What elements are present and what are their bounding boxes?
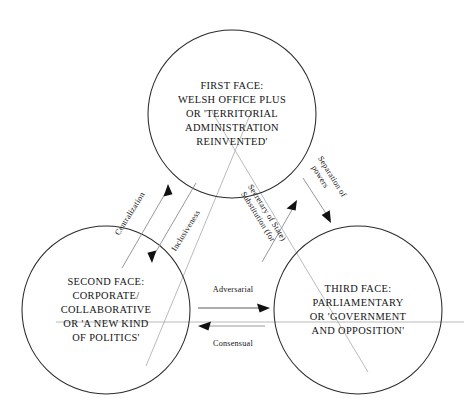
circle-second-face[interactable]: SECOND FACE: CORPORATE/ COLLABORATIVE OR…	[22, 226, 190, 394]
arrowhead-adversarial	[257, 304, 270, 313]
third-face-line-1: THIRD FACE:	[325, 283, 392, 294]
second-face-line-1: SECOND FACE:	[67, 276, 144, 287]
arrowhead-separation-of-powers	[322, 210, 331, 223]
arrowhead-inclusiveness	[147, 251, 156, 264]
edge-label-inclusiveness: Inclusiveness	[170, 208, 202, 252]
edge-label-adversarial: Adversarial	[213, 285, 254, 294]
first-face-line-2: WELSH OFFICE PLUS	[178, 94, 286, 105]
arrowhead-consensual	[198, 322, 211, 331]
third-face-line-3: OR 'GOVERNMENT	[310, 311, 407, 322]
arrowhead-centralization	[164, 184, 173, 197]
edge-separation-of-powers[interactable]: Separation of powers	[303, 155, 348, 223]
diagram-canvas: FIRST FACE: WELSH OFFICE PLUS OR 'TERRIT…	[0, 0, 464, 420]
second-face-line-2: CORPORATE/	[72, 290, 139, 301]
circle-first-face[interactable]: FIRST FACE: WELSH OFFICE PLUS OR 'TERRIT…	[148, 30, 316, 198]
edge-substitution[interactable]: Substitution (for Secretary of State)	[239, 183, 297, 262]
circle-third-face[interactable]: THIRD FACE: PARLIAMENTARY OR 'GOVERNMENT…	[274, 226, 442, 394]
first-face-line-5: REINVENTED'	[196, 136, 268, 147]
second-face-line-4: OR 'A NEW KIND	[63, 318, 149, 329]
first-face-line-1: FIRST FACE:	[200, 80, 263, 91]
third-face-line-4: AND OPPOSITION'	[312, 325, 405, 336]
second-face-line-5: OF POLITICS'	[72, 332, 140, 343]
edge-consensual[interactable]: Consensual	[198, 322, 265, 348]
guide-line-left	[146, 110, 252, 366]
three-faces-diagram: FIRST FACE: WELSH OFFICE PLUS OR 'TERRIT…	[0, 0, 464, 420]
arrowhead-substitution	[287, 200, 298, 211]
second-face-line-3: COLLABORATIVE	[61, 304, 152, 315]
third-face-line-2: PARLIAMENTARY	[312, 297, 403, 308]
edge-adversarial[interactable]: Adversarial	[198, 285, 270, 312]
first-face-line-3: OR 'TERRITORIAL	[186, 108, 278, 119]
edge-centralization[interactable]: Centralization	[113, 184, 172, 268]
first-face-line-4: ADMINISTRATION	[185, 122, 279, 133]
circle-outline-third-face	[274, 226, 442, 394]
edge-label-consensual: Consensual	[213, 339, 253, 348]
